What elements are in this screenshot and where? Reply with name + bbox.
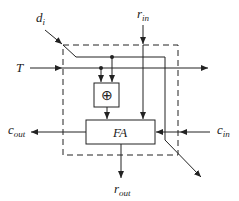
fa-label: FA [112,125,127,140]
c-out-label: cout [8,122,26,139]
d-input-arrow [45,30,62,44]
d-output-arrow [198,174,201,177]
c-in-label: cin [217,122,230,139]
r-out-label: rout [114,181,131,198]
xor-symbol: ⊕ [101,88,113,103]
d-signal-path [63,45,200,176]
r-in-label: rin [137,6,150,23]
d-input-label: di [36,10,46,27]
t-input-label: T [16,60,24,75]
cell-diagram: ⊕ FA di T rin cout cin rout [0,0,239,201]
